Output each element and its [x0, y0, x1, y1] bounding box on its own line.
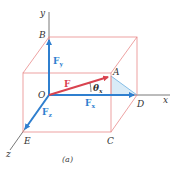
- angle-label: θx: [93, 83, 103, 94]
- figure-caption: (a): [62, 155, 73, 164]
- vector-fz-label: Fz: [42, 107, 52, 118]
- vector-f-label: F: [64, 79, 71, 89]
- point-e-label: E: [23, 136, 31, 146]
- y-axis-label: y: [39, 8, 46, 18]
- vector-fy-label: Fy: [53, 56, 63, 68]
- vector-diagram: y x z B O A D C E F Fy Fx Fz θx (a): [0, 0, 184, 169]
- diagram-canvas: y x z B O A D C E F Fy Fx Fz θx (a): [0, 0, 184, 169]
- point-c-label: C: [107, 136, 114, 146]
- point-b-label: B: [38, 30, 46, 40]
- vector-fx-label: Fx: [85, 98, 95, 109]
- point-a-label: A: [112, 67, 120, 77]
- z-axis-label: z: [5, 149, 11, 159]
- x-axis-label: x: [163, 95, 168, 105]
- point-o-label: O: [38, 90, 46, 100]
- point-d-label: D: [136, 99, 144, 109]
- angle-arc: [90, 83, 91, 92]
